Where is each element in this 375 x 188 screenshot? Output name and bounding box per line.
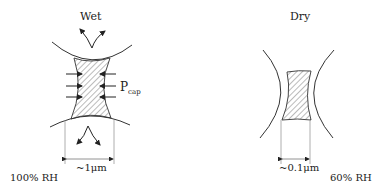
- dry-title: Dry: [290, 10, 310, 23]
- wet-bottom-particle: [50, 116, 130, 127]
- wet-down-arrow-right: [88, 126, 100, 145]
- wet-gap-label: ~1μm: [76, 162, 107, 173]
- wet-up-arrow-left: [80, 29, 92, 48]
- wet-panel: [50, 29, 132, 164]
- capillary-diagram: [0, 0, 375, 188]
- dry-rh-label: 60% RH: [330, 172, 372, 183]
- wet-title: Wet: [80, 10, 101, 23]
- dry-right-particle: [314, 50, 334, 138]
- pcap-label-sub: cap: [128, 88, 141, 96]
- wet-top-particle: [52, 42, 132, 60]
- pcap-label-main: P: [120, 80, 128, 94]
- dry-liquid-bridge: [282, 71, 311, 120]
- wet-down-arrow-left: [77, 126, 88, 144]
- pcap-label: Pcap: [120, 80, 141, 96]
- wet-rh-label: 100% RH: [10, 172, 58, 183]
- dry-left-particle: [260, 50, 281, 138]
- wet-liquid-bridge: [71, 58, 111, 119]
- dry-panel: [260, 50, 334, 164]
- wet-up-arrow-right: [92, 31, 105, 48]
- dry-gap-label: ~0.1μm: [279, 162, 319, 173]
